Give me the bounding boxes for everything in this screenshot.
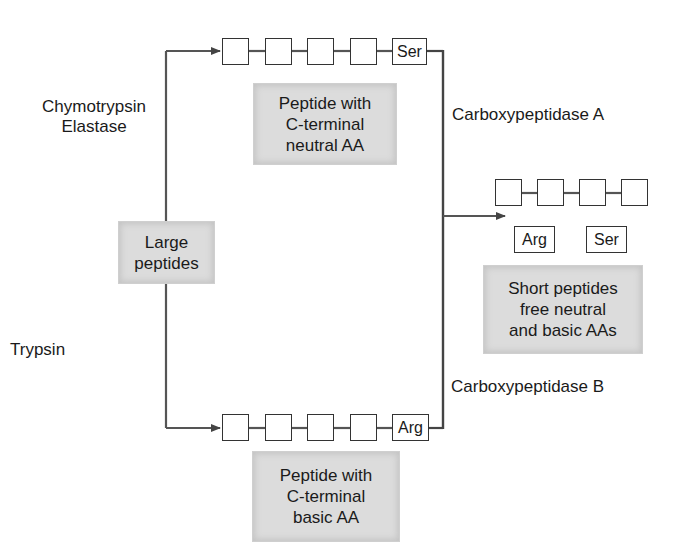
residue-box [222,38,249,65]
top-chain-description-box: Peptide with C-terminal neutral AA [253,83,397,165]
top-desc-line2: C-terminal [279,114,372,135]
residue-box [537,179,564,206]
residue-box [307,414,334,441]
bottom-desc-line1: Peptide with [280,465,373,486]
large-peptides-line1: Large [134,232,198,253]
residue-box [265,38,292,65]
enzyme-chymotrypsin: Chymotrypsin [30,97,158,117]
products-desc-line3: and basic AAs [508,320,618,341]
large-peptides-line2: peptides [134,253,198,274]
residue-arg: Arg [392,414,429,441]
residue-box [495,179,522,206]
large-peptides-box: Large peptides [118,221,215,284]
enzyme-label-carboxypeptidase-b: Carboxypeptidase B [451,377,604,397]
products-desc-line2: free neutral [508,299,618,320]
residue-box [307,38,334,65]
enzyme-label-trypsin: Trypsin [10,340,65,360]
products-desc-line1: Short peptides [508,278,618,299]
residue-box [621,179,648,206]
enzyme-elastase: Elastase [30,117,158,137]
residue-ser: Ser [392,38,427,65]
residue-box [350,38,377,65]
residue-box [579,179,606,206]
free-residue-ser: Ser [586,226,627,253]
bottom-desc-line3: basic AA [280,507,373,528]
bottom-chain-description-box: Peptide with C-terminal basic AA [252,451,400,542]
enzyme-label-carboxypeptidase-a: Carboxypeptidase A [452,105,604,125]
residue-box [265,414,292,441]
free-residue-arg: Arg [514,226,555,253]
top-desc-line3: neutral AA [279,135,372,156]
residue-box [222,414,249,441]
top-desc-line1: Peptide with [279,93,372,114]
enzyme-label-chymotrypsin-elastase: Chymotrypsin Elastase [30,97,158,137]
residue-box [350,414,377,441]
products-description-box: Short peptides free neutral and basic AA… [483,265,643,354]
bottom-desc-line2: C-terminal [280,486,373,507]
